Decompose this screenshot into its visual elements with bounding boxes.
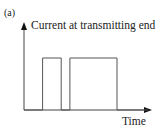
y-axis [21, 22, 27, 110]
y-axis-arrow-icon [21, 22, 27, 30]
waveform-chart [0, 0, 163, 136]
pulse-waveform [24, 58, 148, 110]
